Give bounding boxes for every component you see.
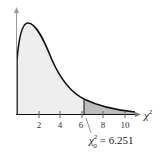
tick-label-8: 8	[101, 120, 106, 130]
tick-label-6: 6	[79, 120, 84, 130]
tick-label-10: 10	[121, 120, 131, 130]
tick-label-2: 2	[37, 120, 42, 130]
tick-label-4: 4	[58, 120, 63, 130]
non-rejection-region	[17, 23, 84, 114]
critical-value-annotation: χ20= 6.251	[88, 133, 134, 150]
x-axis-arrow-icon	[135, 112, 141, 117]
chi-square-chart: 2 4 6 8 10 χ2 χ20= 6.251	[0, 0, 163, 158]
x-axis-label: χ2	[143, 108, 153, 121]
y-axis-arrow-icon	[14, 7, 19, 13]
annotation-leader-line	[86, 118, 91, 133]
